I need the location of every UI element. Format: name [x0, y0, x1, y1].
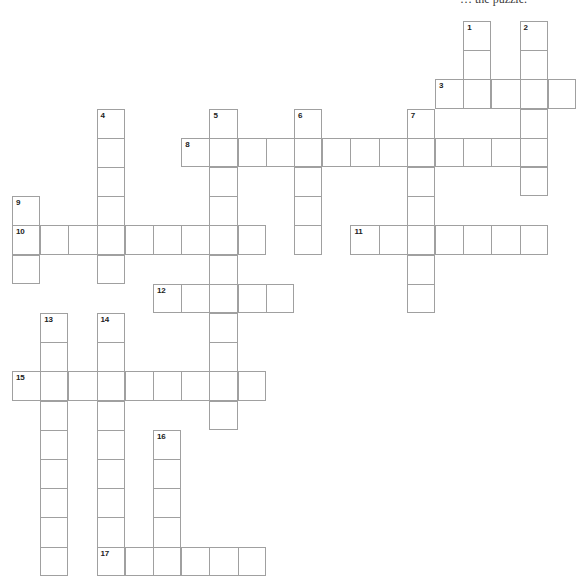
cell-divider: [408, 255, 434, 256]
entry-2-down: [520, 21, 548, 196]
cell-divider: [435, 139, 436, 166]
cell-divider: [548, 80, 549, 107]
cell-divider: [463, 226, 464, 253]
cell-divider: [521, 50, 547, 51]
cell-divider: [98, 517, 124, 518]
cell-divider: [491, 80, 492, 107]
cell-divider: [238, 285, 239, 312]
entry-11-across: [350, 225, 547, 254]
worksheet-page: … the puzzle. 1234567891011121314151617: [0, 0, 583, 583]
cell-divider: [68, 372, 69, 399]
entry-4-down: [97, 109, 125, 284]
cell-divider: [322, 139, 323, 166]
cell-divider: [520, 226, 521, 253]
cell-divider: [97, 372, 98, 399]
cell-divider: [210, 342, 236, 343]
cell-divider: [491, 139, 492, 166]
cell-divider: [13, 255, 39, 256]
cell-divider: [210, 255, 236, 256]
cell-divider: [68, 226, 69, 253]
cell-divider: [181, 285, 182, 312]
cell-divider: [41, 547, 67, 548]
entry-17-across: [97, 547, 266, 576]
cell-divider: [520, 139, 521, 166]
cell-divider: [153, 372, 154, 399]
cell-divider: [210, 313, 236, 314]
cell-divider: [154, 459, 180, 460]
cell-divider: [463, 139, 464, 166]
cell-divider: [41, 401, 67, 402]
cell-divider: [98, 255, 124, 256]
cell-divider: [209, 548, 210, 575]
entry-6-down: [294, 109, 322, 255]
cell-divider: [294, 139, 295, 166]
cell-divider: [238, 372, 239, 399]
cell-divider: [209, 226, 210, 253]
cell-divider: [295, 225, 321, 226]
cell-divider: [521, 167, 547, 168]
cell-divider: [521, 109, 547, 110]
cell-divider: [40, 226, 41, 253]
cell-divider: [464, 50, 490, 51]
entry-13-down: [40, 313, 68, 576]
cell-divider: [379, 226, 380, 253]
cell-divider: [154, 488, 180, 489]
cell-divider: [210, 401, 236, 402]
cell-divider: [98, 459, 124, 460]
cell-divider: [238, 226, 239, 253]
entry-10-across: [12, 225, 266, 254]
cell-divider: [408, 284, 434, 285]
entry-3-across: [435, 79, 576, 108]
cell-divider: [210, 196, 236, 197]
cell-divider: [408, 196, 434, 197]
cell-divider: [238, 139, 239, 166]
cell-divider: [125, 548, 126, 575]
cell-divider: [209, 139, 210, 166]
entry-14-down: [97, 313, 125, 576]
cell-divider: [379, 139, 380, 166]
cell-divider: [153, 226, 154, 253]
cell-divider: [181, 372, 182, 399]
cell-divider: [41, 459, 67, 460]
cell-divider: [520, 80, 521, 107]
cell-divider: [181, 226, 182, 253]
cell-divider: [210, 167, 236, 168]
cell-divider: [98, 401, 124, 402]
cell-divider: [41, 488, 67, 489]
cell-divider: [41, 430, 67, 431]
cell-divider: [295, 167, 321, 168]
cell-divider: [209, 372, 210, 399]
cell-divider: [41, 517, 67, 518]
cell-divider: [41, 342, 67, 343]
cell-divider: [98, 430, 124, 431]
cell-divider: [295, 196, 321, 197]
cell-divider: [125, 226, 126, 253]
cell-divider: [491, 226, 492, 253]
cell-divider: [407, 226, 408, 253]
cell-divider: [98, 488, 124, 489]
cell-divider: [181, 548, 182, 575]
cell-divider: [97, 226, 98, 253]
entry-15-across: [12, 371, 266, 400]
cell-divider: [209, 285, 210, 312]
cell-divider: [98, 167, 124, 168]
cell-divider: [238, 548, 239, 575]
entry-12-across: [153, 284, 294, 313]
crossword-grid: 1234567891011121314151617: [0, 0, 583, 583]
cell-divider: [125, 372, 126, 399]
cell-divider: [463, 80, 464, 107]
cell-divider: [40, 372, 41, 399]
cell-divider: [266, 285, 267, 312]
cell-divider: [98, 196, 124, 197]
entry-8-across: [181, 138, 548, 167]
cell-divider: [350, 139, 351, 166]
cell-divider: [153, 548, 154, 575]
cell-divider: [98, 342, 124, 343]
cell-divider: [98, 138, 124, 139]
cell-divider: [266, 139, 267, 166]
cell-divider: [408, 167, 434, 168]
cell-divider: [154, 517, 180, 518]
cell-divider: [407, 139, 408, 166]
cell-divider: [435, 226, 436, 253]
